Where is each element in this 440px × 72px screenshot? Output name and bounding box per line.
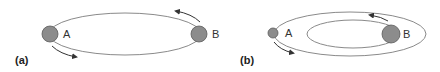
panel-b: A B (b)	[240, 12, 426, 66]
arrow-top-icon	[370, 15, 388, 21]
body-a-icon	[42, 26, 58, 42]
body-b-icon	[382, 25, 400, 43]
body-a-label: A	[285, 27, 293, 39]
orbit-ellipse	[49, 13, 201, 55]
body-b-label: B	[403, 28, 410, 40]
arrow-top-icon	[176, 11, 200, 22]
arrow-bottom-icon	[52, 46, 76, 57]
panel-a: A B (a)	[15, 11, 219, 66]
body-a-label: A	[63, 28, 71, 40]
body-b-label: B	[212, 28, 219, 40]
panel-label-a: (a)	[15, 54, 29, 66]
orbit-diagram: A B (a) A B (b)	[0, 0, 440, 72]
panel-label-b: (b)	[240, 54, 254, 66]
body-b-icon	[191, 26, 207, 42]
body-a-icon	[268, 28, 278, 38]
